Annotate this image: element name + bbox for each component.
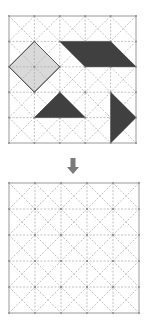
diagonal — [9, 287, 35, 313]
diagonal — [87, 209, 113, 235]
diagonal — [35, 235, 61, 261]
diagonal — [113, 261, 139, 287]
diagonal — [113, 235, 139, 261]
grid-vertex — [60, 234, 62, 236]
dark-right-triangle-fill — [111, 92, 136, 143]
grid-vertex — [86, 260, 88, 262]
diagonal — [35, 287, 61, 313]
diagonal — [113, 209, 139, 235]
grid-vertex — [60, 260, 62, 262]
diagonal — [61, 183, 87, 209]
diagonal — [9, 183, 35, 209]
diagonal — [9, 235, 35, 261]
diagonal — [35, 261, 61, 287]
grid-vertex — [34, 234, 36, 236]
grid-vertex — [33, 66, 35, 68]
grid-vertex — [34, 260, 36, 262]
bottom-grid-empty — [8, 182, 140, 314]
diagonal — [61, 209, 87, 235]
grid-vertex — [112, 234, 114, 236]
diagonal — [9, 261, 35, 287]
grid-vertex — [60, 286, 62, 288]
dark-parallelogram-fill — [60, 41, 136, 66]
down-arrow-icon — [67, 158, 79, 174]
grid-vertex — [34, 286, 36, 288]
puzzle-diagram — [0, 0, 146, 324]
top-grid — [8, 15, 137, 144]
dark-triangle-fill — [34, 92, 85, 117]
grid-vertex — [112, 260, 114, 262]
diagonal — [87, 287, 113, 313]
diagonal — [61, 287, 87, 313]
diagonal — [61, 235, 87, 261]
grid-vertex — [112, 208, 114, 210]
grid-vertex — [60, 208, 62, 210]
grid-vertex — [112, 286, 114, 288]
diagonal — [61, 261, 87, 287]
diagonal — [113, 287, 139, 313]
diagonal — [87, 183, 113, 209]
diagonal — [87, 235, 113, 261]
grid-vertex — [84, 91, 86, 93]
diagonal — [35, 183, 61, 209]
grid-vertex — [86, 234, 88, 236]
grid-vertex — [86, 286, 88, 288]
diagonal — [35, 209, 61, 235]
grid-vertex — [86, 208, 88, 210]
diagonal — [113, 183, 139, 209]
diagonal — [9, 209, 35, 235]
diagonal — [87, 261, 113, 287]
grid-vertex — [34, 208, 36, 210]
